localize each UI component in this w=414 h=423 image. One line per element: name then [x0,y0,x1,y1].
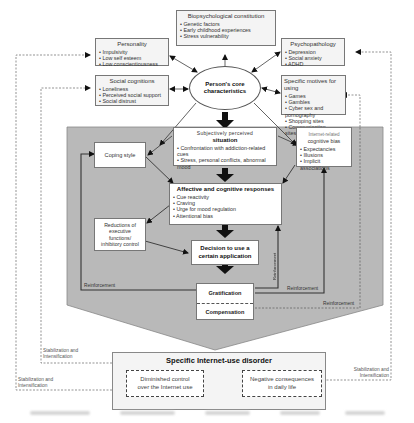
stabilization-label-right: Stabilization and Intensification [345,367,389,378]
i-pace-diagram: Biopsychological constitution Genetic fa… [0,0,414,423]
decision-line2: certain application [198,253,251,261]
stabilization-label-outer-left: Stabilization and Intensification [18,377,53,388]
executive-functions-box: Reductions of executive functions/ inhib… [94,218,146,251]
specific-motives-box: Specific motives for using Games Gambles… [281,75,346,115]
coping-style-label: Coping style [105,152,136,158]
psychopathology-box: Psychopathology Depression Social anxiet… [281,38,345,66]
executive-line4: inhibitory control [101,241,139,247]
situation-box: Subjectively perceived situation Confron… [173,127,277,166]
diminished-control-box: Diminished control over the Internet use [126,370,204,397]
reinforcement-label-right-outer: Reinforcement [323,301,354,306]
stabilization-line: Intensification [43,354,78,360]
diminished-line1: Diminished control [140,376,189,384]
negative-line2: in daily life [268,384,296,392]
core-label-line2: characteristics [204,88,246,95]
cognitive-bias-box: Internet-related cognitive bias Expectan… [296,127,352,167]
diminished-line2: over the Internet use [137,384,192,392]
situation-title-line2: situation [174,137,276,144]
negative-consequences-box: Negative consequences in daily life [242,370,322,397]
social-cognitions-box: Social cognitions Loneliness Perceived s… [95,75,169,106]
illegible-caption [30,411,90,415]
affective-item: Attentional bias [173,213,281,219]
social-item: Social distrust [99,98,168,104]
compensation-label: Compensation [197,304,253,320]
personality-box: Personality Impulsivity Low self esteem … [95,38,169,66]
biopsychological-box: Biopsychological constitution Genetic fa… [176,10,276,46]
illegible-caption [120,411,175,415]
negative-line1: Negative consequences [250,376,314,384]
biopsychological-title: Biopsychological constitution [177,13,275,20]
core-characteristics-ellipse: Person's core characteristics [189,66,261,110]
reinforcement-label-left: Reinforcement [84,283,115,288]
gratification-label: Gratification [197,284,253,303]
gratification-compensation-box: Gratification Compensation [196,283,254,320]
affective-cognitive-box: Affective and cognitive responses Cue re… [169,183,282,225]
coping-style-box: Coping style [94,142,146,168]
stabilization-line: Stabilization and [18,377,53,383]
stabilization-line: Intensification [18,383,53,389]
stabilization-line: Stabilization and [43,348,78,354]
situation-item: Stress, personal conflicts, abnormal moo… [177,157,276,169]
psychopathology-item: ADHD [285,61,344,67]
illegible-caption [280,411,320,415]
specific-motives-title: Specific motives for using [284,78,345,92]
cognitive-bias-title-line1: Internet-related [297,131,351,138]
psychopathology-title: Psychopathology [282,41,344,48]
reinforcement-label-right-inner: Reinforcement [287,286,318,291]
disorder-title: Specific Internet-use disorder [113,356,325,365]
situation-title-line1: Subjectively perceived [174,130,276,137]
bias-item: Implicit associations [300,158,351,170]
biopsych-item: Stress vulnerability [180,33,275,39]
illegible-caption [345,411,385,415]
motive-item: Cyber sex and pornography [285,105,345,117]
decision-line1: Decision to use a [200,245,249,253]
situation-item: Confrontation with addiction-related cue… [177,145,276,157]
personality-title: Personality [96,41,168,48]
affective-title: Affective and cognitive responses [170,186,281,193]
reinforcement-label-vertical: Reinforcement [272,240,277,280]
social-cognitions-title: Social cognitions [96,78,168,85]
illegible-caption [205,411,250,415]
core-label-line1: Person's core [205,81,244,88]
stabilization-line: Intensification [345,373,389,379]
decision-box: Decision to use a certain application [191,240,259,265]
personality-item: Low conscientiousness [99,61,168,67]
cognitive-bias-title-line2: cognitive bias [297,138,351,145]
stabilization-label-inner-left: Stabilization and Intensification [43,348,78,359]
